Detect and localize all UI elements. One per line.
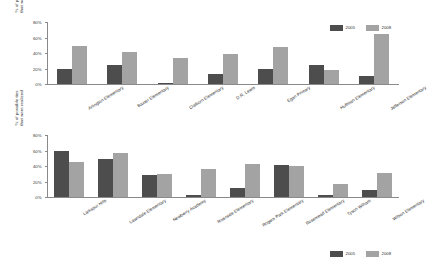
bar-2005 bbox=[186, 195, 201, 197]
bar-2008 bbox=[377, 173, 392, 197]
bar-2005 bbox=[258, 69, 273, 84]
bar-2008 bbox=[245, 164, 260, 197]
x-axis-label: Huffman Elementary bbox=[339, 85, 376, 110]
x-axis-label: Rogers Park Elementary bbox=[261, 198, 304, 228]
y-axis-tick-label: 60% bbox=[33, 148, 42, 153]
legend-label: 2005 bbox=[346, 25, 356, 30]
y-axis-tick-label: 0% bbox=[35, 195, 41, 200]
bar-group bbox=[267, 135, 311, 197]
y-axis-tick-label: 80% bbox=[33, 20, 42, 25]
legend-top: 20052008 bbox=[330, 25, 391, 31]
bar-group bbox=[135, 135, 179, 197]
y-axis-title-bottom: % of possible ties that were realized bbox=[14, 77, 28, 139]
bar-2005 bbox=[362, 190, 377, 197]
bar-groups-bottom bbox=[47, 135, 399, 197]
y-axis-tick-label: 80% bbox=[33, 133, 42, 138]
legend-label: 2008 bbox=[382, 25, 392, 30]
y-axis-tick-label: 0% bbox=[35, 82, 41, 87]
bar-2008 bbox=[69, 162, 84, 197]
bar-group bbox=[47, 135, 91, 197]
x-axis-label: Arlington Elementary bbox=[87, 85, 124, 111]
bar-group bbox=[355, 135, 399, 197]
bar-2008 bbox=[324, 70, 339, 84]
x-axis-labels-bottom: Larkspur HillsLawndale ElementaryNewberr… bbox=[47, 198, 399, 226]
x-axis-label: Egan Primary bbox=[286, 85, 311, 103]
x-axis-label: Riverside Elementary bbox=[216, 198, 254, 224]
bar-2005 bbox=[359, 76, 374, 84]
legend-label: 2008 bbox=[382, 251, 392, 256]
legend-swatch bbox=[366, 25, 379, 31]
bar-group bbox=[47, 22, 97, 84]
bar-2008 bbox=[122, 52, 137, 84]
bar-2008 bbox=[289, 166, 304, 197]
x-axis-labels-top: Arlington ElementaryBaxter ElementaryCla… bbox=[47, 85, 399, 113]
x-axis-label: Tyson William bbox=[346, 198, 372, 217]
y-axis-tick-label: 20% bbox=[33, 179, 42, 184]
bar-2008 bbox=[333, 184, 348, 197]
bar-2008 bbox=[201, 169, 216, 197]
y-axis-title-line2: that were realized bbox=[19, 77, 24, 139]
bar-2005 bbox=[98, 159, 113, 197]
x-axis-label: Lawndale Elementary bbox=[128, 198, 166, 225]
bar-2008 bbox=[273, 47, 288, 84]
bar-2005 bbox=[57, 69, 72, 84]
bar-2008 bbox=[173, 58, 188, 84]
y-axis-tick-label: 40% bbox=[33, 164, 42, 169]
bar-2008 bbox=[223, 54, 238, 84]
x-axis-label: Wilson Elementary bbox=[392, 198, 426, 222]
legend-swatch bbox=[366, 251, 379, 257]
legend-bottom: 20052008 bbox=[330, 251, 391, 257]
bar-groups-top bbox=[47, 22, 399, 84]
x-axis-label: Jefferson Elementary bbox=[389, 85, 427, 111]
bar-group bbox=[91, 135, 135, 197]
bar-group bbox=[298, 22, 348, 84]
y-axis-title-top: % of possible ties that were realized bbox=[14, 0, 28, 26]
bar-group bbox=[248, 22, 298, 84]
legend-item-2008: 2008 bbox=[366, 25, 391, 31]
bar-2005 bbox=[54, 151, 69, 198]
plot-area-top: 0%20%40%60%80% bbox=[47, 22, 399, 84]
x-axis-label: Rosemead Elementary bbox=[305, 198, 346, 226]
bar-2005 bbox=[318, 195, 333, 197]
x-axis-label: D.R. Lewis bbox=[235, 85, 256, 100]
bar-2005 bbox=[208, 74, 223, 84]
bar-group bbox=[198, 22, 248, 84]
y-axis-title-line2: that were realized bbox=[19, 0, 24, 26]
plot-area-bottom: 0%20%40%60%80% bbox=[47, 135, 399, 197]
bar-2008 bbox=[113, 153, 128, 197]
bar-2005 bbox=[309, 65, 324, 84]
bar-2005 bbox=[107, 65, 122, 84]
x-axis-label: Claiborn Elementary bbox=[188, 85, 224, 110]
bar-2005 bbox=[158, 83, 173, 84]
bar-group bbox=[148, 22, 198, 84]
y-axis-tick-label: 40% bbox=[33, 51, 42, 56]
bar-2005 bbox=[230, 188, 245, 197]
x-axis-label: Larkspur Hills bbox=[82, 198, 107, 216]
x-axis-label: Baxter Elementary bbox=[137, 85, 170, 108]
y-axis-tick-label: 60% bbox=[33, 35, 42, 40]
bar-2008 bbox=[374, 34, 389, 84]
bar-2005 bbox=[142, 175, 157, 197]
bar-group bbox=[97, 22, 147, 84]
x-axis-label: Newberry Academy bbox=[172, 198, 207, 222]
bar-2008 bbox=[72, 46, 87, 84]
legend-item-2008: 2008 bbox=[366, 251, 391, 257]
legend-swatch bbox=[330, 25, 343, 31]
y-axis-tick-label: 20% bbox=[33, 66, 42, 71]
chart-top: % of possible ties that were realized 0%… bbox=[0, 0, 425, 113]
legend-item-2005: 2005 bbox=[330, 25, 355, 31]
legend-label: 2005 bbox=[346, 251, 356, 256]
legend-item-2005: 2005 bbox=[330, 251, 355, 257]
bar-group bbox=[223, 135, 267, 197]
bar-2008 bbox=[157, 174, 172, 197]
bar-group bbox=[179, 135, 223, 197]
bar-2005 bbox=[274, 165, 289, 197]
legend-swatch bbox=[330, 251, 343, 257]
chart-bottom: % of possible ties that were realized 0%… bbox=[0, 113, 425, 226]
bar-group bbox=[349, 22, 399, 84]
bar-group bbox=[311, 135, 355, 197]
